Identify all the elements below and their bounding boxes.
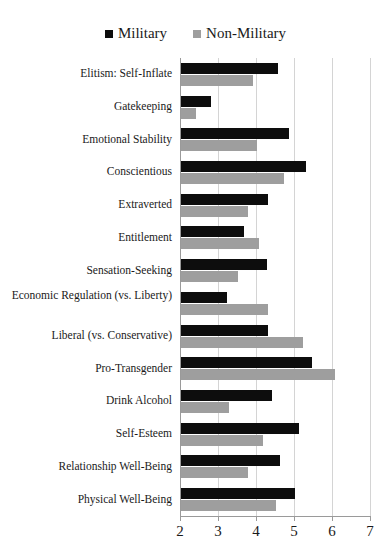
bar-non-military: [181, 108, 196, 119]
bar-group: [181, 325, 371, 348]
bar-military: [181, 455, 280, 466]
bar-non-military: [181, 140, 257, 151]
bar-non-military: [181, 369, 335, 380]
x-axis-tick-labels: 234567: [180, 522, 370, 544]
chart-row: Emotional Stability: [0, 123, 391, 156]
category-label: Relationship Well-Being: [0, 460, 172, 473]
chart-row: Pro-Transgender: [0, 352, 391, 385]
legend-entry-non-military: Non-Military: [193, 26, 286, 41]
category-label: Self-Esteem: [0, 427, 172, 440]
x-tick-label: 2: [168, 522, 192, 540]
chart-row: Elitism: Self-Inflate: [0, 58, 391, 91]
square-marker-icon: [193, 30, 201, 38]
bar-non-military: [181, 75, 253, 86]
bar-non-military: [181, 238, 259, 249]
bar-military: [181, 226, 244, 237]
bar-group: [181, 259, 371, 282]
bar-group: [181, 96, 371, 119]
bar-military: [181, 390, 272, 401]
chart-row: Relationship Well-Being: [0, 451, 391, 484]
x-tick-label: 3: [206, 522, 230, 540]
tick-mark: [332, 516, 333, 521]
chart-row: Extraverted: [0, 189, 391, 222]
bar-non-military: [181, 500, 276, 511]
chart-row: Conscientious: [0, 156, 391, 189]
legend-label-non-military: Non-Military: [206, 26, 286, 41]
tick-mark: [370, 516, 371, 521]
bar-group: [181, 194, 371, 217]
chart-row: Sensation-Seeking: [0, 254, 391, 287]
bar-group: [181, 128, 371, 151]
bar-military: [181, 63, 278, 74]
category-label: Liberal (vs. Conservative): [0, 329, 172, 342]
x-axis-line: [180, 516, 370, 517]
bar-military: [181, 161, 306, 172]
bar-group: [181, 226, 371, 249]
legend-label-military: Military: [118, 26, 167, 41]
category-label: Gatekeeping: [0, 100, 172, 113]
bar-non-military: [181, 206, 248, 217]
category-label: Entitlement: [0, 231, 172, 244]
bar-group: [181, 63, 371, 86]
chart-row: Physical Well-Being: [0, 483, 391, 516]
category-label: Physical Well-Being: [0, 493, 172, 506]
tick-mark: [294, 516, 295, 521]
category-label: Sensation-Seeking: [0, 264, 172, 277]
chart-legend: Military Non-Military: [0, 20, 391, 46]
category-label: Pro-Transgender: [0, 362, 172, 375]
bar-military: [181, 128, 289, 139]
chart-row: Economic Regulation (vs. Liberty): [0, 287, 391, 320]
category-label: Drink Alcohol: [0, 394, 172, 407]
tick-mark: [256, 516, 257, 521]
x-tick-label: 4: [244, 522, 268, 540]
bar-military: [181, 423, 299, 434]
square-marker-icon: [105, 30, 113, 38]
bar-military: [181, 259, 267, 270]
chart-row: Entitlement: [0, 222, 391, 255]
bar-non-military: [181, 173, 284, 184]
category-label: Economic Regulation (vs. Liberty): [0, 289, 172, 302]
bar-non-military: [181, 402, 229, 413]
bar-group: [181, 455, 371, 478]
x-tick-label: 6: [320, 522, 344, 540]
bar-group: [181, 357, 371, 380]
bar-military: [181, 292, 227, 303]
chart-row: Self-Esteem: [0, 418, 391, 451]
bar-group: [181, 423, 371, 446]
category-label: Conscientious: [0, 165, 172, 178]
bar-non-military: [181, 467, 248, 478]
bar-military: [181, 357, 312, 368]
bar-military: [181, 488, 295, 499]
bar-non-military: [181, 304, 268, 315]
bar-non-military: [181, 435, 263, 446]
x-tick-label: 5: [282, 522, 306, 540]
category-label: Elitism: Self-Inflate: [0, 67, 172, 80]
bar-non-military: [181, 271, 238, 282]
bar-group: [181, 161, 371, 184]
tick-mark: [218, 516, 219, 521]
bar-military: [181, 194, 268, 205]
chart-row: Gatekeeping: [0, 91, 391, 124]
bar-group: [181, 390, 371, 413]
category-label: Extraverted: [0, 198, 172, 211]
category-label: Emotional Stability: [0, 133, 172, 146]
bar-group: [181, 292, 371, 315]
x-tick-label: 7: [358, 522, 382, 540]
bar-group: [181, 488, 371, 511]
bar-non-military: [181, 337, 303, 348]
tick-mark: [180, 516, 181, 521]
chart-row: Liberal (vs. Conservative): [0, 320, 391, 353]
bar-chart: Elitism: Self-InflateGatekeepingEmotiona…: [0, 52, 391, 559]
chart-row: Drink Alcohol: [0, 385, 391, 418]
bar-military: [181, 96, 211, 107]
bar-military: [181, 325, 268, 336]
legend-entry-military: Military: [105, 26, 167, 41]
